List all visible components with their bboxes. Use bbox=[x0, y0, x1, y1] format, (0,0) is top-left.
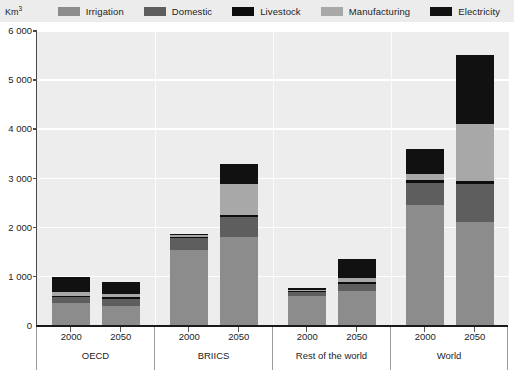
y-axis-tick-label: 3 000 bbox=[8, 172, 32, 183]
bar-segment-domestic bbox=[288, 292, 326, 295]
bar-segment-manufacturing bbox=[406, 174, 444, 180]
y-axis-unit-exponent: 3 bbox=[19, 5, 23, 12]
legend-label: Livestock bbox=[260, 6, 301, 17]
x-axis-tickmark bbox=[120, 327, 121, 332]
x-axis-group-label: OECD bbox=[37, 350, 154, 361]
y-axis-tickmark bbox=[33, 79, 37, 81]
x-axis-year-label: 2050 bbox=[228, 331, 249, 342]
legend-item-livestock[interactable]: Livestock bbox=[232, 6, 301, 17]
group-separator bbox=[391, 30, 392, 325]
y-axis-tick-label: 5 000 bbox=[8, 74, 32, 85]
legend-item-manufacturing[interactable]: Manufacturing bbox=[321, 6, 411, 17]
bar-segment-irrigation bbox=[456, 222, 494, 325]
x-axis-year-label: 2000 bbox=[179, 331, 200, 342]
bar-oecd-2000[interactable] bbox=[52, 277, 90, 325]
bar-segment-domestic bbox=[102, 299, 140, 306]
bar-segment-manufacturing bbox=[52, 292, 90, 296]
x-axis-tickmark bbox=[238, 327, 239, 332]
bar-segment-irrigation bbox=[288, 296, 326, 326]
legend-label: Irrigation bbox=[86, 6, 124, 17]
x-axis-year-label: 2050 bbox=[110, 331, 131, 342]
bar-segment-irrigation bbox=[406, 205, 444, 325]
y-axis-tickmark bbox=[33, 178, 37, 180]
chart-legend: IrrigationDomesticLivestockManufacturing… bbox=[0, 0, 514, 22]
bar-segment-livestock bbox=[288, 291, 326, 292]
bar-world-2050[interactable] bbox=[456, 55, 494, 325]
bar-segment-domestic bbox=[170, 238, 208, 250]
x-axis-year-label: 2000 bbox=[297, 331, 318, 342]
bar-segment-irrigation bbox=[170, 250, 208, 325]
bar-segment-manufacturing bbox=[170, 235, 208, 236]
legend-swatch-electricity-icon bbox=[430, 7, 452, 16]
x-axis-year-label: 2050 bbox=[346, 331, 367, 342]
bar-segment-electricity bbox=[456, 55, 494, 124]
y-axis-tick-label: 0 bbox=[27, 320, 32, 331]
x-axis-year-label: 2050 bbox=[464, 331, 485, 342]
x-axis-tickmark bbox=[188, 327, 189, 332]
x-axis-group-oecd: 20002050OECD bbox=[36, 327, 154, 370]
bar-segment-livestock bbox=[102, 297, 140, 298]
x-axis-group-world: 20002050World bbox=[390, 327, 508, 370]
y-axis-tickmark bbox=[33, 276, 37, 278]
bar-segment-livestock bbox=[170, 237, 208, 238]
bar-segment-manufacturing bbox=[288, 290, 326, 291]
bar-segment-irrigation bbox=[52, 303, 90, 325]
bar-segment-electricity bbox=[288, 288, 326, 289]
x-axis-year-label: 2000 bbox=[415, 331, 436, 342]
legend-swatch-manufacturing-icon bbox=[321, 7, 343, 16]
bar-segment-manufacturing bbox=[338, 278, 376, 282]
bar-segment-electricity bbox=[338, 259, 376, 279]
bar-segment-livestock bbox=[338, 282, 376, 283]
bar-segment-electricity bbox=[170, 234, 208, 235]
bar-segment-irrigation bbox=[338, 291, 376, 325]
bar-world-2000[interactable] bbox=[406, 149, 444, 325]
x-axis-group-label: BRIICS bbox=[155, 350, 272, 361]
legend-swatch-livestock-icon bbox=[232, 7, 254, 16]
bar-rest-of-the-world-2000[interactable] bbox=[288, 288, 326, 325]
y-axis-tick-label: 4 000 bbox=[8, 123, 32, 134]
bar-rest-of-the-world-2050[interactable] bbox=[338, 259, 376, 325]
bar-segment-domestic bbox=[220, 217, 258, 238]
x-axis-group-label: World bbox=[391, 350, 507, 361]
bar-oecd-2050[interactable] bbox=[102, 282, 140, 325]
y-axis-tick-label: 6 000 bbox=[8, 25, 32, 36]
bar-segment-livestock bbox=[456, 181, 494, 184]
bar-segment-irrigation bbox=[102, 306, 140, 325]
legend-swatch-irrigation-icon bbox=[58, 7, 80, 16]
bar-segment-electricity bbox=[102, 282, 140, 294]
bar-segment-electricity bbox=[406, 149, 444, 174]
y-axis-tickmark bbox=[33, 128, 37, 130]
legend-label: Manufacturing bbox=[349, 6, 411, 17]
bar-segment-irrigation bbox=[220, 237, 258, 325]
group-separator bbox=[273, 30, 274, 325]
x-axis-tickmark bbox=[70, 327, 71, 332]
bar-segment-electricity bbox=[52, 277, 90, 291]
x-axis-group-rest-of-the-world: 20002050Rest of the world bbox=[272, 327, 390, 370]
x-axis-tickmark bbox=[306, 327, 307, 332]
legend-swatch-domestic-icon bbox=[144, 7, 166, 16]
bar-segment-livestock bbox=[52, 296, 90, 297]
x-axis-year-label: 2000 bbox=[61, 331, 82, 342]
bar-briics-2000[interactable] bbox=[170, 234, 208, 325]
x-axis-tickmark bbox=[474, 327, 475, 332]
stacked-bar-chart: IrrigationDomesticLivestockManufacturing… bbox=[0, 0, 514, 370]
bar-segment-manufacturing bbox=[102, 294, 140, 297]
legend-item-irrigation[interactable]: Irrigation bbox=[58, 6, 124, 17]
plot-area bbox=[36, 30, 509, 325]
legend-item-domestic[interactable]: Domestic bbox=[144, 6, 212, 17]
bar-briics-2050[interactable] bbox=[220, 164, 258, 325]
x-axis-group-label: Rest of the world bbox=[273, 350, 390, 361]
y-axis-unit-label: Km3 bbox=[5, 5, 22, 17]
bar-segment-domestic bbox=[456, 184, 494, 221]
y-axis-tick-label: 2 000 bbox=[8, 221, 32, 232]
bar-segment-domestic bbox=[406, 183, 444, 205]
legend-label: Domestic bbox=[172, 6, 212, 17]
legend-item-electricity[interactable]: Electricity bbox=[430, 6, 500, 17]
bar-segment-manufacturing bbox=[456, 124, 494, 182]
y-axis-tickmark bbox=[33, 30, 37, 32]
bar-segment-manufacturing bbox=[220, 184, 258, 214]
y-axis-tickmark bbox=[33, 227, 37, 229]
bar-segment-domestic bbox=[338, 284, 376, 291]
x-axis-tickmark bbox=[424, 327, 425, 332]
bar-segment-electricity bbox=[220, 164, 258, 185]
